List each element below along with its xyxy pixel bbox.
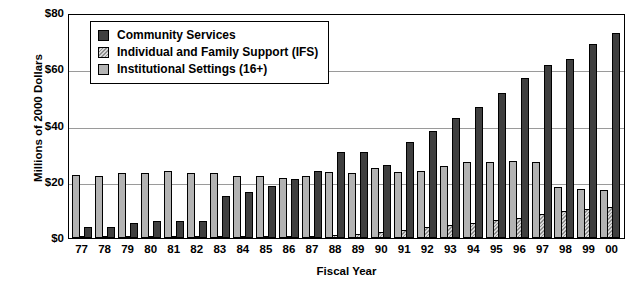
bar-community-services[interactable]: [153, 221, 161, 238]
x-tick-label: 78: [93, 243, 116, 259]
x-tick-label: 86: [277, 243, 300, 259]
bar-community-services[interactable]: [268, 186, 276, 238]
y-tick-label: $60: [18, 64, 64, 75]
bar-community-services[interactable]: [406, 142, 414, 238]
x-tick-label: 77: [70, 243, 93, 259]
bar-community-services[interactable]: [314, 171, 322, 239]
x-tick-label: 87: [300, 243, 323, 259]
bar-institutional-settings[interactable]: [233, 176, 241, 238]
bar-community-services[interactable]: [176, 221, 184, 238]
y-tick-label: $0: [18, 233, 64, 244]
bar-community-services[interactable]: [84, 227, 92, 238]
bar-institutional-settings[interactable]: [302, 176, 310, 238]
legend-item-label: Institutional Settings (16+): [117, 63, 267, 76]
x-tick-label: 94: [462, 243, 485, 259]
x-tick-label: 96: [508, 243, 531, 259]
bar-community-services[interactable]: [566, 59, 574, 238]
x-tick-label: 88: [324, 243, 347, 259]
bar-institutional-settings[interactable]: [325, 172, 333, 238]
bar-group: [553, 15, 576, 238]
legend-item-label: Community Services: [117, 29, 236, 42]
bar-institutional-settings[interactable]: [210, 173, 218, 238]
bar-group: [484, 15, 507, 238]
legend-item[interactable]: Individual and Family Support (IFS): [98, 44, 318, 60]
bar-community-services[interactable]: [521, 78, 529, 238]
y-tick-label: $40: [18, 121, 64, 132]
bar-institutional-settings[interactable]: [371, 168, 379, 238]
bar-group: [392, 15, 415, 238]
x-tick-label: 79: [116, 243, 139, 259]
chart-legend: Community ServicesIndividual and Family …: [90, 21, 329, 84]
bar-institutional-settings[interactable]: [279, 178, 287, 238]
bar-group: [599, 15, 622, 238]
x-tick-label: 97: [531, 243, 554, 259]
bar-institutional-settings[interactable]: [348, 173, 356, 238]
bar-community-services[interactable]: [291, 179, 299, 238]
y-tick-label: $20: [18, 177, 64, 188]
bar-community-services[interactable]: [107, 227, 115, 238]
y-tick-label: $80: [18, 8, 64, 19]
y-axis-tick-labels: $0$20$40$60$80: [0, 0, 64, 287]
x-tick-label: 85: [254, 243, 277, 259]
bar-institutional-settings[interactable]: [256, 176, 264, 238]
bar-group: [530, 15, 553, 238]
bar-institutional-settings[interactable]: [118, 173, 126, 238]
bar-community-services[interactable]: [245, 192, 253, 238]
bar-group: [369, 15, 392, 238]
bar-community-services[interactable]: [199, 221, 207, 238]
bar-institutional-settings[interactable]: [394, 172, 402, 238]
bar-community-services[interactable]: [222, 196, 230, 238]
x-tick-label: 92: [416, 243, 439, 259]
x-tick-label: 83: [208, 243, 231, 259]
bar-community-services[interactable]: [130, 223, 138, 238]
x-axis-tick-labels: 7778798081828384858687888990919293949596…: [68, 243, 625, 259]
bar-institutional-settings[interactable]: [187, 173, 195, 238]
bar-institutional-settings[interactable]: [72, 175, 80, 238]
x-tick-label: 95: [485, 243, 508, 259]
x-tick-label: 81: [162, 243, 185, 259]
bar-community-services[interactable]: [429, 131, 437, 238]
community-services-swatch: [98, 30, 109, 41]
bar-community-services[interactable]: [589, 44, 597, 238]
x-axis-title: Fiscal Year: [68, 265, 625, 277]
bar-group: [507, 15, 530, 238]
ifs-swatch: [98, 47, 109, 58]
x-tick-label: 89: [347, 243, 370, 259]
bar-community-services[interactable]: [475, 107, 483, 238]
x-tick-label: 93: [439, 243, 462, 259]
bar-group: [346, 15, 369, 238]
bar-chart: Millions of 2000 Dollars $0$20$40$60$80 …: [0, 0, 633, 287]
bar-institutional-settings[interactable]: [141, 173, 149, 238]
legend-item-label: Individual and Family Support (IFS): [117, 46, 318, 59]
bar-community-services[interactable]: [337, 152, 345, 238]
x-tick-label: 90: [370, 243, 393, 259]
bar-community-services[interactable]: [498, 93, 506, 238]
x-tick-label: 00: [600, 243, 623, 259]
bar-community-services[interactable]: [544, 65, 552, 238]
bar-group: [438, 15, 461, 238]
x-tick-label: 82: [185, 243, 208, 259]
bar-community-services[interactable]: [383, 165, 391, 238]
x-tick-label: 99: [577, 243, 600, 259]
bar-community-services[interactable]: [360, 152, 368, 238]
bar-institutional-settings[interactable]: [95, 176, 103, 238]
bar-group: [576, 15, 599, 238]
bar-group: [415, 15, 438, 238]
bar-community-services[interactable]: [452, 118, 460, 238]
institutional-settings-swatch: [98, 64, 109, 75]
x-tick-label: 80: [139, 243, 162, 259]
x-tick-label: 84: [231, 243, 254, 259]
x-tick-label: 91: [393, 243, 416, 259]
bar-group: [461, 15, 484, 238]
x-tick-label: 98: [554, 243, 577, 259]
legend-item[interactable]: Institutional Settings (16+): [98, 61, 318, 77]
bar-community-services[interactable]: [612, 33, 620, 238]
bar-institutional-settings[interactable]: [164, 171, 172, 239]
legend-item[interactable]: Community Services: [98, 27, 318, 43]
